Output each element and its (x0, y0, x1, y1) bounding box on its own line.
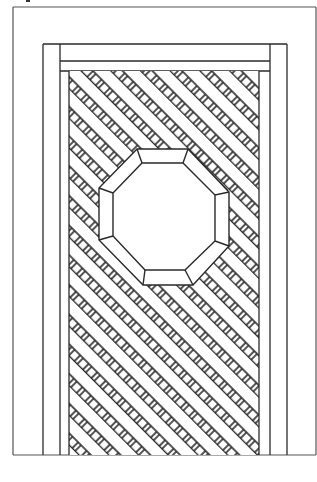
top-mark (26, 0, 30, 2)
lattice-panel-drawing (0, 0, 317, 482)
